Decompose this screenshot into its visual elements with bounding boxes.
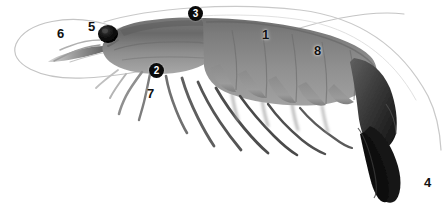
- callout-label-8: 8: [314, 44, 321, 57]
- callout-label-5: 5: [88, 20, 95, 33]
- eye: [98, 25, 118, 43]
- callout-label-7: 7: [147, 87, 154, 100]
- shrimp-photograph: [0, 0, 442, 212]
- callout-label-3: 3: [188, 6, 203, 21]
- shrimp-figure: 1 2 3 4 5 6 7 8: [0, 0, 442, 212]
- callout-label-2: 2: [149, 63, 164, 78]
- eye-highlight: [102, 29, 108, 34]
- callout-label-4: 4: [424, 176, 431, 189]
- callout-label-6: 6: [57, 27, 64, 40]
- callout-label-1: 1: [262, 28, 269, 41]
